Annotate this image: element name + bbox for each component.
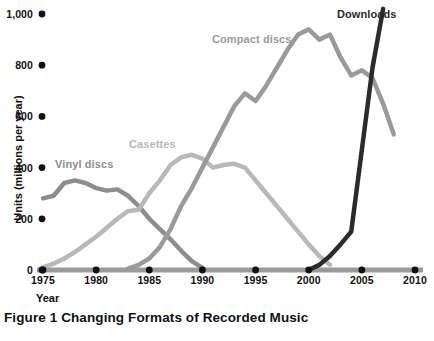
y-axis-title: Units (millions per year) [12,83,24,233]
series-label-casettes: Casettes [129,138,176,150]
series-label-downloads: Downloads [337,8,397,20]
x-tick-label-2000: 2000 [297,274,321,286]
series-label-vinyl-discs: Vinyl discs [55,158,113,170]
y-tick-label-0: 0 [0,264,33,276]
x-tick-label-1990: 1990 [191,274,215,286]
x-tick-label-1980: 1980 [84,274,108,286]
figure-caption: Figure 1 Changing Formats of Recorded Mu… [4,310,308,325]
x-tick-label-2005: 2005 [350,274,374,286]
x-tick-label-1995: 1995 [244,274,268,286]
series-label-compact-discs: Compact discs [212,33,292,45]
x-tick-label-1985: 1985 [137,274,161,286]
chart-plot-area: 1,000 800 600 400 200 0 1975 1980 1985 1… [0,0,434,300]
y-tick-label-800: 800 [0,59,33,71]
x-tick-label-2010: 2010 [403,274,427,286]
chart-svg [0,0,434,300]
x-tick-label-1975: 1975 [31,274,55,286]
figure-root: 1,000 800 600 400 200 0 1975 1980 1985 1… [0,0,434,341]
x-axis-title: Year [36,292,59,304]
y-tick-label-1000: 1,000 [0,8,33,20]
